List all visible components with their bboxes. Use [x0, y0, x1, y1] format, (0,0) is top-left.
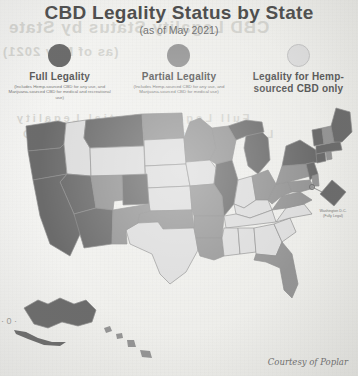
state-AR[interactable] [194, 216, 224, 238]
state-IA[interactable] [186, 160, 216, 186]
state-AL[interactable] [238, 228, 256, 254]
dc-callout-leader-line [314, 188, 322, 192]
legend: Full Legality (Includes Hemp-sourced CBD… [0, 44, 358, 106]
legend-swatch-hemp-only [287, 44, 310, 67]
page-subtitle: (as of May 2021) [0, 24, 358, 36]
state-NE[interactable] [145, 164, 190, 188]
legend-label-partial-legality: Partial Legality [142, 71, 216, 82]
state-WA[interactable] [26, 121, 66, 151]
page-title: CBD Legality Status by State [0, 2, 358, 24]
legend-item-hemp-only: Legality for Hemp-sourced CBD only [239, 44, 358, 106]
dc-callout-diamond[interactable] [320, 180, 346, 206]
page-edge-mark: · 0 · [1, 317, 17, 325]
state-MD[interactable] [288, 180, 314, 192]
state-ME[interactable] [331, 108, 352, 142]
state-MT[interactable] [84, 114, 144, 148]
us-map[interactable]: Washington D.C. (Fully Legal) [0, 104, 358, 362]
state-AZ[interactable] [74, 208, 113, 248]
state-HI[interactable] [104, 326, 112, 333]
state-CO[interactable] [122, 174, 149, 205]
state-AK[interactable] [24, 298, 96, 328]
state-MN[interactable] [184, 118, 216, 162]
courtesy-credit: Courtesy of Poplar [268, 357, 348, 367]
legend-description-full-legality: (Includes Hemp-sourced CBD for any use, … [8, 84, 112, 100]
legend-label-full-legality: Full Legality [29, 71, 90, 82]
legend-item-partial-legality: Partial Legality (Includes Hemp-sourced … [119, 44, 238, 106]
state-TX[interactable] [126, 222, 198, 284]
state-RI[interactable] [326, 151, 332, 160]
legend-description-partial-legality: (Includes Hemp-sourced CBD for any use, … [127, 84, 231, 95]
legend-label-hemp-only: Legality for Hemp-sourced CBD only [239, 71, 358, 94]
state-ND[interactable] [142, 113, 184, 140]
dc-callout-sublabel: (Fully Legal) [323, 214, 343, 218]
state-MS[interactable] [222, 228, 240, 256]
state-HI-3[interactable] [127, 340, 136, 347]
state-UT[interactable] [91, 175, 123, 210]
legend-item-full-legality: Full Legality (Includes Hemp-sourced CBD… [0, 44, 119, 106]
state-SD[interactable] [144, 138, 186, 166]
legend-swatch-full-legality [48, 44, 71, 67]
state-AK-aleutians[interactable] [14, 330, 66, 346]
state-WY[interactable] [90, 146, 145, 176]
state-HI-4[interactable] [140, 350, 152, 358]
state-HI-2[interactable] [116, 333, 123, 339]
dc-callout-label: Washington D.C. [319, 209, 346, 213]
state-LA[interactable] [196, 238, 224, 260]
us-map-svg[interactable]: Washington D.C. (Fully Legal) [0, 104, 358, 362]
state-KS[interactable] [147, 186, 192, 211]
legend-swatch-partial-legality [167, 44, 190, 67]
